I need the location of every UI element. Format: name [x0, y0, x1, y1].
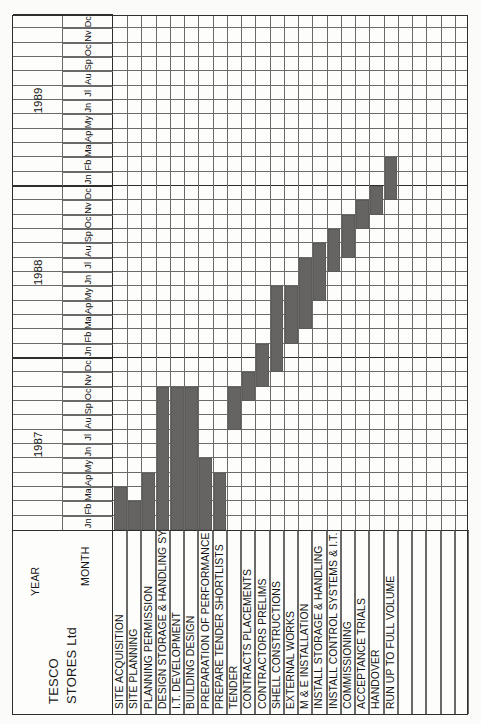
month-header-cell: Oc: [63, 215, 113, 229]
month-header-cell: Ap: [63, 301, 113, 315]
task-label-row: SITE ACQUISITION: [113, 530, 127, 714]
gantt-bar: [199, 458, 212, 530]
month-header-cell: Jn: [63, 172, 113, 186]
task-label-row: EXTERNAL WORKS: [284, 530, 298, 714]
month-header-cell: My: [63, 458, 113, 472]
task-label-row: TENDER: [227, 530, 241, 714]
task-label-row-empty: [412, 530, 426, 714]
gantt-bar: [356, 200, 369, 229]
task-label-row: INSTALL CONTROL SYSTEMS & I.T.: [327, 530, 341, 714]
gantt-bar: [128, 501, 141, 530]
gantt-bar: [185, 387, 198, 530]
task-label-row: INSTALL STORAGE & HANDLING: [312, 530, 326, 714]
month-header-cell: My: [63, 286, 113, 300]
gantt-bar: [114, 487, 127, 530]
task-label-row: M & E INSTALLATION: [298, 530, 312, 714]
gantt-bar: [256, 344, 269, 387]
month-header-cell: Oc: [63, 43, 113, 57]
month-caption: MONTH: [79, 547, 91, 587]
gantt-bar: [157, 387, 170, 530]
company-name-line1: TESCO: [45, 541, 63, 704]
month-header-cell: Jn: [63, 272, 113, 286]
task-label-row: CONTRACTS PLACEMENTS: [241, 530, 255, 714]
gantt-bar: [342, 215, 355, 258]
month-header-cell: Sp: [63, 229, 113, 243]
task-label-row-empty: [398, 530, 412, 714]
task-label-row: ACCEPTANCE TRIALS: [355, 530, 369, 714]
gantt-bar: [285, 286, 298, 343]
gantt-bar: [228, 387, 241, 430]
month-header-cell: Dc: [63, 358, 113, 372]
month-header-cell: Jn: [63, 516, 113, 530]
year-caption: YEAR: [29, 567, 41, 596]
month-header-cell: Au: [63, 243, 113, 257]
month-header-cell: Fb: [63, 329, 113, 343]
task-label-row: HANDOVER: [369, 530, 383, 714]
month-header-cell: Jl: [63, 430, 113, 444]
task-label-row: I.T. DEVELOPMENT: [170, 530, 184, 714]
task-label-row: BUILDING DESIGN: [184, 530, 198, 714]
month-header-cell: Dc: [63, 14, 113, 28]
month-header-cell: Sp: [63, 401, 113, 415]
gantt-bar: [171, 387, 184, 530]
month-header-cell: Au: [63, 415, 113, 429]
month-header-cell: Ap: [63, 473, 113, 487]
task-label-row: DESIGN STORAGE & HANDLING SYSTEMS: [156, 530, 170, 714]
gantt-bar: [142, 473, 155, 530]
company-title-block: TESCO STORES Ltd: [13, 530, 113, 714]
gantt-bar: [242, 372, 255, 401]
month-header-cell: Fb: [63, 157, 113, 171]
month-header-cell: Au: [63, 71, 113, 85]
month-header-cell: Nv: [63, 28, 113, 42]
month-header-cell: Jn: [63, 100, 113, 114]
chart-frame: TESCO STORES Ltd 198719881989 JnFbMaApMy…: [12, 15, 468, 715]
month-header-cell: Jl: [63, 258, 113, 272]
month-header-cell: My: [63, 114, 113, 128]
month-header-cell: Nv: [63, 372, 113, 386]
task-label-row: SITE PLANNING: [127, 530, 141, 714]
month-header-row: JnFbMaApMyJnJlAuSpOcNvDcJnFbMaApMyJnJlAu…: [63, 16, 113, 530]
task-label-row: SHELL CONSTRUCTIONS: [270, 530, 284, 714]
month-header-cell: Fb: [63, 501, 113, 515]
month-header-cell: Sp: [63, 57, 113, 71]
gantt-bar: [370, 186, 383, 215]
gantt-chart-page: TESCO STORES Ltd 198719881989 JnFbMaApMy…: [0, 0, 481, 724]
month-header-cell: Dc: [63, 186, 113, 200]
task-label-row: PREPARE TENDER SHORTLISTS: [213, 530, 227, 714]
gantt-bar: [385, 157, 398, 200]
company-name-line2: STORES Ltd: [63, 541, 81, 704]
task-label-row: PLANNING PERMISSION: [141, 530, 155, 714]
month-header-cell: Ap: [63, 129, 113, 143]
month-header-cell: Ma: [63, 315, 113, 329]
task-label-row-empty: [455, 530, 469, 714]
month-header-cell: Ma: [63, 143, 113, 157]
year-header-cell: 1987: [13, 358, 63, 530]
year-header-row: 198719881989: [13, 16, 63, 530]
month-header-cell: Jn: [63, 444, 113, 458]
task-label-row: COMMISSIONING: [341, 530, 355, 714]
year-header-cell: 1989: [13, 14, 63, 186]
gantt-bar: [299, 258, 312, 330]
task-label-row: RUN UP TO FULL VOLUME: [384, 530, 398, 714]
task-label-row: PREPARATION OF PERFORMANCE SPECS: [198, 530, 212, 714]
task-label-row-empty: [426, 530, 440, 714]
gantt-bar: [271, 286, 284, 372]
gantt-bar: [328, 229, 341, 272]
month-header-cell: Jn: [63, 344, 113, 358]
task-label-row-empty: [441, 530, 455, 714]
gantt-bar: [313, 243, 326, 300]
month-header-cell: Nv: [63, 200, 113, 214]
month-header-cell: Jl: [63, 86, 113, 100]
month-header-cell: Oc: [63, 387, 113, 401]
month-header-cell: Ma: [63, 487, 113, 501]
year-header-cell: 1988: [13, 186, 63, 358]
gantt-bar: [214, 473, 227, 530]
task-label-row: CONTRACTORS PRELIMS: [255, 530, 269, 714]
